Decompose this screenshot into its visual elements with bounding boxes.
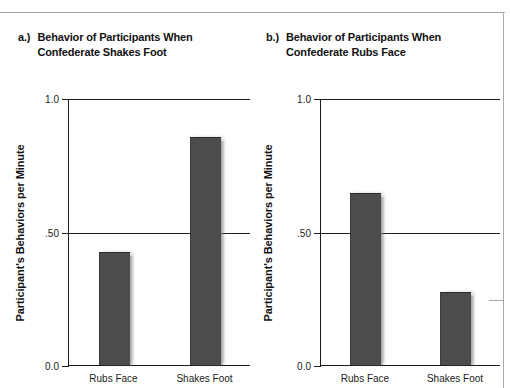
chart-a-y-tick-label: .50 xyxy=(45,227,59,238)
chart-a-bar-1 xyxy=(190,137,221,365)
chart-b-plot-area: 0.0.501.0Rubs FaceShakes Foot xyxy=(320,99,500,366)
chart-b-gridline-.50 xyxy=(320,233,500,234)
chart-a-x-axis-line xyxy=(68,365,250,366)
chart-b-y-axis-label: Participant's Behaviors per Minute xyxy=(260,99,276,366)
chart-a-title: a.) Behavior of Participants When Confed… xyxy=(18,30,253,59)
chart-a-gridline-1.0 xyxy=(68,99,250,100)
chart-a-y-tick-label: 0.0 xyxy=(45,361,59,372)
chart-b-y-tick-.50 xyxy=(314,233,320,234)
chart-panel-b: b.) Behavior of Participants When Confed… xyxy=(252,0,510,388)
chart-a-title-tag: a.) xyxy=(18,30,30,45)
chart-a-y-tick-1.0 xyxy=(62,99,68,100)
chart-a-bar-0 xyxy=(99,252,130,365)
chart-b-bar-0 xyxy=(350,193,381,365)
chart-b-y-tick-0.0 xyxy=(314,366,320,367)
chart-b-title-tag: b.) xyxy=(266,30,279,45)
chart-a-title-text: Behavior of Participants When Confederat… xyxy=(37,30,253,59)
chart-b-y-tick-1.0 xyxy=(314,99,320,100)
chart-b-y-tick-label: .50 xyxy=(297,227,311,238)
chart-a-plot-area: 0.0.501.0Rubs FaceShakes Foot xyxy=(68,99,250,366)
chart-b-title-text: Behavior of Participants When Confederat… xyxy=(286,30,506,59)
chart-b-x-tick-label: Rubs Face xyxy=(341,373,389,384)
chart-b-bar-1 xyxy=(440,292,471,365)
chart-b-gridline-1.0 xyxy=(320,99,500,100)
chart-a-y-tick-label: 1.0 xyxy=(45,94,59,105)
chart-b-title: b.) Behavior of Participants When Confed… xyxy=(266,30,506,59)
chart-a-x-tick-label: Shakes Foot xyxy=(176,373,232,384)
chart-b-x-tick-label: Shakes Foot xyxy=(427,373,483,384)
chart-a-y-tick-.50 xyxy=(62,233,68,234)
chart-b-y-tick-label: 0.0 xyxy=(297,361,311,372)
chart-a-y-axis-label: Participant's Behaviors per Minute xyxy=(12,99,28,366)
chart-b-y-tick-label: 1.0 xyxy=(297,94,311,105)
chart-panel-a: a.) Behavior of Participants When Confed… xyxy=(0,0,258,388)
chart-a-y-tick-0.0 xyxy=(62,366,68,367)
chart-b-x-axis-line xyxy=(320,365,500,366)
chart-a-x-tick-label: Rubs Face xyxy=(89,373,137,384)
